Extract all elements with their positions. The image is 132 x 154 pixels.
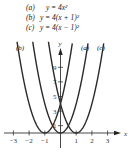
curve-label-b: (b) [16, 44, 24, 52]
x-axis-label: x [123, 130, 128, 138]
y-tick-label: 9 [53, 64, 57, 72]
x-tick-label: 3 [106, 137, 110, 145]
axes: xy−3−2−112313579 [4, 40, 128, 148]
x-tick-label: −3 [10, 137, 18, 145]
x-tick-label: −2 [25, 137, 33, 145]
y-tick-label: 3 [53, 108, 57, 116]
x-tick-label: −1 [41, 137, 49, 145]
y-axis-arrow-icon [58, 48, 62, 55]
x-tick-label: 1 [74, 137, 78, 145]
parabola-b [17, 42, 72, 133]
parabola-c [48, 42, 103, 133]
x-axis-arrow-icon [114, 131, 121, 135]
y-tick-label: 5 [53, 93, 57, 101]
y-tick-label: 7 [53, 78, 57, 86]
plot-area: xy−3−2−112313579 [0, 0, 132, 154]
curve-label-a: (a) [81, 44, 89, 52]
x-tick-label: 2 [90, 137, 94, 145]
y-tick-label: 1 [53, 122, 57, 130]
curve-label-c: (c) [97, 44, 105, 52]
y-axis-label: y [58, 40, 63, 48]
